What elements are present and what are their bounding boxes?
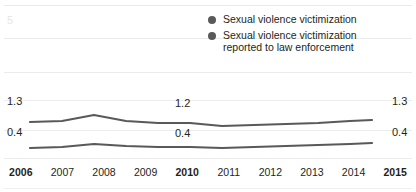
value-label-right-top: 1.3: [392, 95, 407, 107]
value-label-right-bottom: 0.4: [392, 126, 407, 138]
value-label-mid-bottom: 0.4: [175, 127, 190, 139]
x-axis-labels: 2006 2007 2008 2009 2010 2011 2012 2013 …: [0, 166, 416, 182]
value-label-left-top: 1.3: [7, 95, 22, 107]
x-axis-tick-2006: 2006: [0, 166, 42, 182]
x-axis-tick-2007: 2007: [42, 166, 84, 182]
x-axis-tick-2009: 2009: [125, 166, 167, 182]
series-line-victimization: [30, 115, 372, 126]
x-axis-tick-2013: 2013: [291, 166, 333, 182]
x-axis-tick-2012: 2012: [250, 166, 292, 182]
value-label-mid-top: 1.2: [175, 97, 190, 109]
x-axis-tick-2008: 2008: [83, 166, 125, 182]
chart-plot-area: [0, 0, 416, 192]
x-axis-tick-2011: 2011: [208, 166, 250, 182]
chart-container: 5 Sexual violence victimization Sexual v…: [0, 0, 416, 192]
x-axis-tick-2015: 2015: [374, 166, 416, 182]
x-axis-tick-2014: 2014: [333, 166, 375, 182]
value-label-left-bottom: 0.4: [7, 126, 22, 138]
x-axis-tick-2010: 2010: [166, 166, 208, 182]
series-line-reported: [30, 143, 372, 148]
